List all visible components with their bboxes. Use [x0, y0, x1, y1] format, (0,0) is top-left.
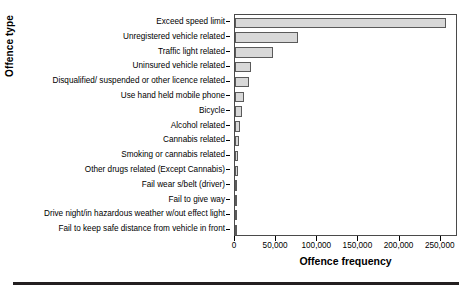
bar	[235, 210, 237, 220]
bar-row	[235, 119, 456, 135]
x-axis-tick-label: 0	[232, 241, 237, 250]
bar-row	[235, 104, 456, 120]
category-tick-mark	[226, 36, 230, 37]
category-tick-mark	[226, 95, 230, 96]
category-label: Disqualified/ suspended or other licence…	[53, 73, 226, 89]
category-label: Exceed speed limit	[156, 14, 225, 30]
category-label: Fail wear s/belt (driver)	[142, 177, 225, 193]
bar	[235, 166, 238, 176]
bar-row	[235, 133, 456, 149]
category-label: Cannabis related	[163, 132, 225, 148]
bar	[235, 151, 238, 161]
bar-row	[235, 207, 456, 223]
bar	[235, 32, 298, 42]
x-axis-tick-label: 150,000	[343, 241, 373, 250]
bar	[235, 121, 240, 131]
category-tick-mark	[226, 21, 230, 22]
x-axis-tick-labels: 050,000100,000150,000200,000250,000	[184, 241, 471, 253]
bar	[235, 225, 237, 235]
bar-row	[235, 193, 456, 209]
category-label: Uninsured vehicle related	[133, 58, 225, 74]
bar	[235, 47, 273, 57]
category-label: Bicycle	[199, 103, 225, 119]
bar-row	[235, 89, 456, 105]
category-tick-mark	[226, 125, 230, 126]
category-tick-mark	[226, 214, 230, 215]
bar-row	[235, 45, 456, 61]
category-tick-mark	[226, 66, 230, 67]
bar-chart-figure: Offence type Exceed speed limitUnregiste…	[0, 0, 471, 295]
bar	[235, 180, 237, 190]
category-tick-mark	[226, 169, 230, 170]
category-label: Alcohol related	[171, 118, 225, 134]
bar	[235, 18, 446, 28]
bar-row	[235, 30, 456, 46]
category-tick-mark	[226, 199, 230, 200]
category-label: Other drugs related (Except Cannabis)	[85, 162, 225, 178]
bar	[235, 106, 242, 116]
bar-row	[235, 59, 456, 75]
bar-row	[235, 178, 456, 194]
bar-row	[235, 74, 456, 90]
bar	[235, 136, 239, 146]
category-tick-mark	[226, 184, 230, 185]
x-axis-tick-label: 50,000	[263, 241, 288, 250]
bar-row	[235, 148, 456, 164]
category-label: Use hand held mobile phone	[121, 88, 225, 104]
category-tick-mark	[226, 155, 230, 156]
category-tick-mark	[226, 229, 230, 230]
category-tick-mark	[226, 110, 230, 111]
bar	[235, 195, 237, 205]
x-axis-tick-label: 100,000	[301, 241, 331, 250]
category-tick-mark	[226, 51, 230, 52]
category-axis-labels: Exceed speed limitUnregistered vehicle r…	[14, 14, 230, 236]
plot-frame	[234, 14, 457, 236]
bar-row	[235, 163, 456, 179]
category-tick-mark	[226, 81, 230, 82]
category-label: Traffic light related	[158, 44, 225, 60]
plot-area	[235, 15, 456, 235]
bar	[235, 62, 251, 72]
category-label: Fail to keep safe distance from vehicle …	[58, 221, 225, 237]
category-label: Drive night/in hazardous weather w/out e…	[44, 206, 225, 222]
bar	[235, 77, 249, 87]
category-label: Unregistered vehicle related	[123, 29, 225, 45]
x-axis-tick-label: 200,000	[384, 241, 414, 250]
bottom-divider-rule	[13, 282, 459, 285]
category-tick-mark	[226, 140, 230, 141]
x-axis-tick-label: 250,000	[425, 241, 455, 250]
bar-row	[235, 15, 456, 31]
x-axis-title: Offence frequency	[234, 255, 457, 267]
category-label: Smoking or cannabis related	[121, 147, 225, 163]
category-label: Fail to give way	[169, 192, 225, 208]
bar	[235, 92, 244, 102]
